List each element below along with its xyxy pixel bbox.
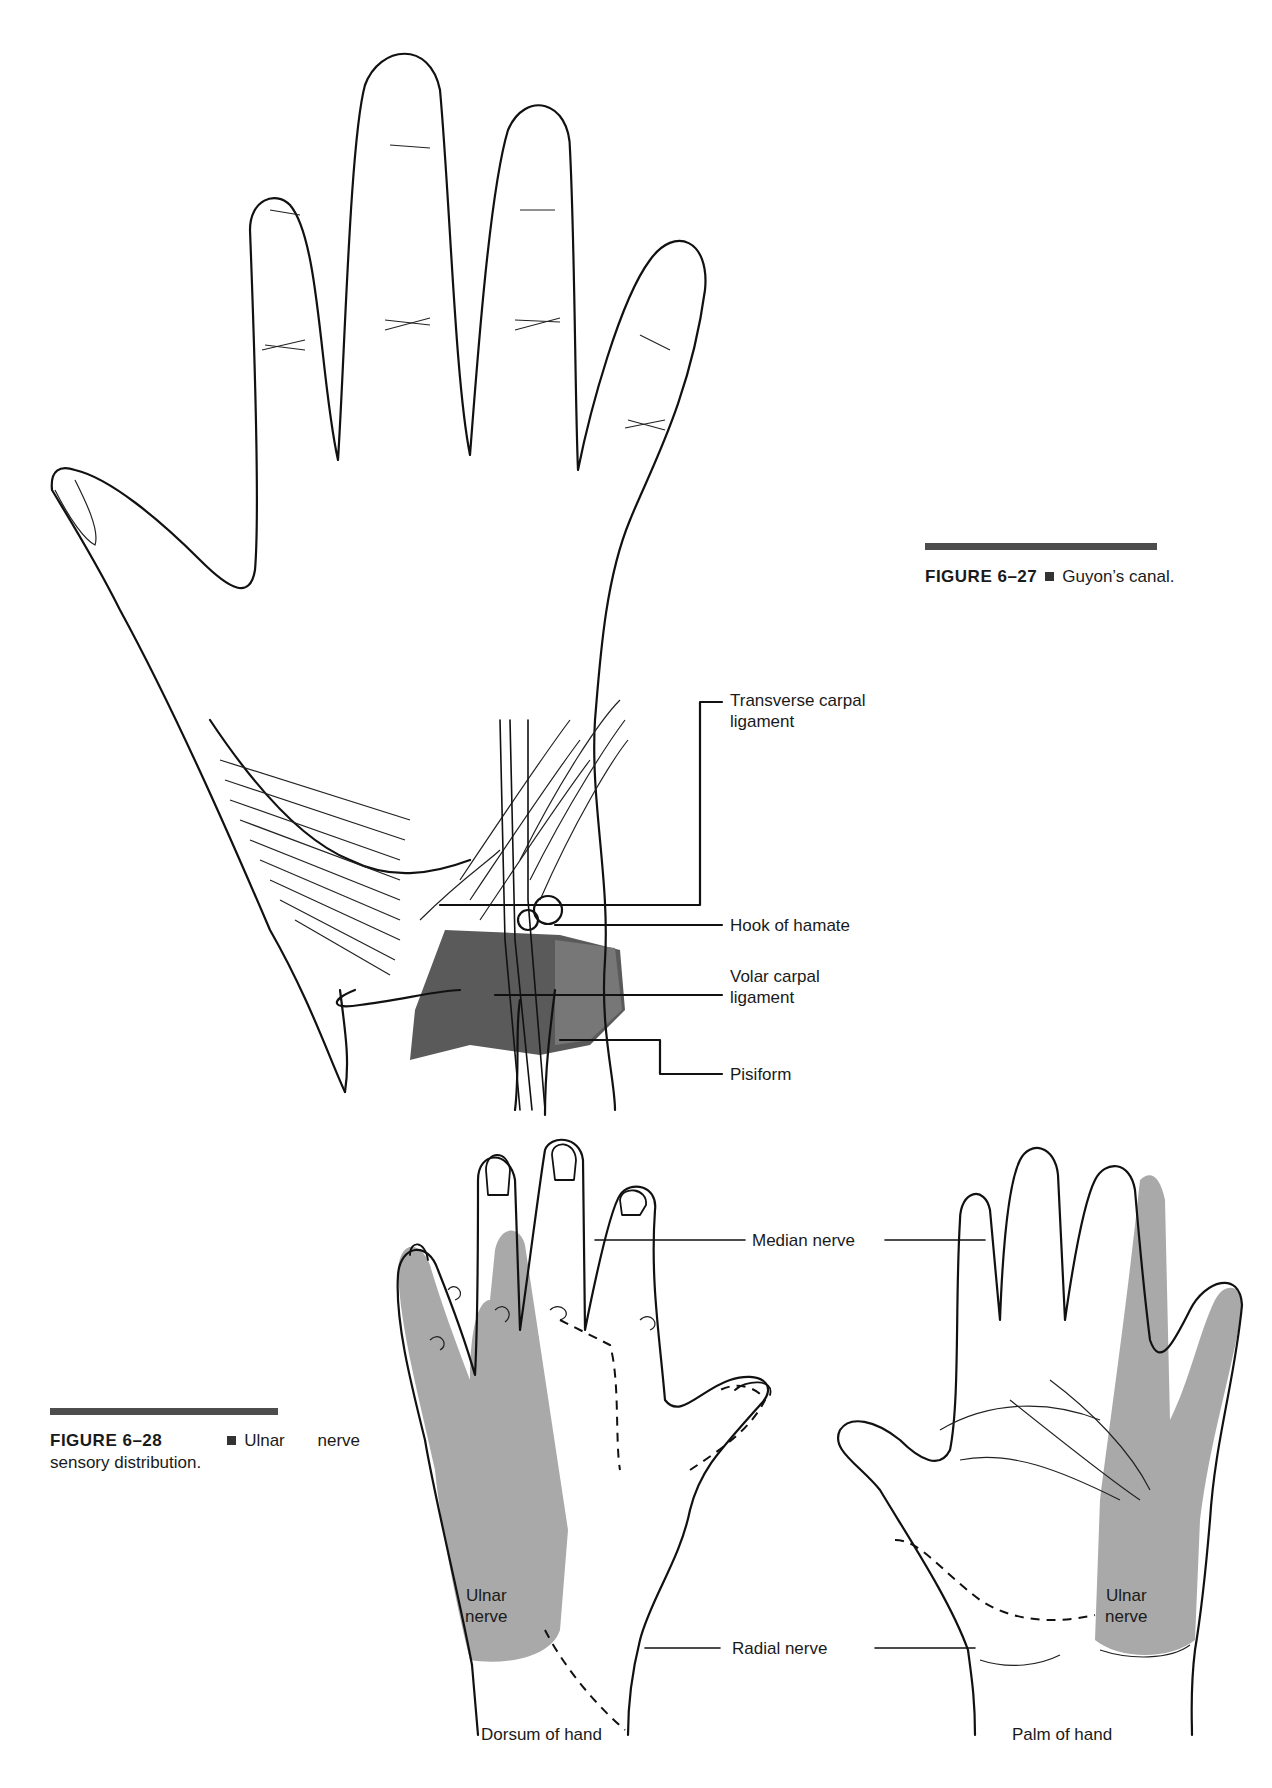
fig28-leader-lines (595, 1240, 985, 1648)
bullet-square-icon (227, 1436, 236, 1445)
label-line: Ulnar (1105, 1585, 1148, 1606)
figure-6-28-caption-rule (50, 1408, 278, 1415)
caption-line-1: FIGURE 6–28 Ulnar nerve (50, 1430, 360, 1452)
ulnar-nerve-distribution-illustration (0, 0, 1272, 1788)
palm-dashed-boundary (895, 1540, 1095, 1620)
label-radial-nerve: Radial nerve (732, 1638, 827, 1659)
label-ulnar-nerve-dorsum: Ulnar nerve (465, 1585, 508, 1627)
label-line: nerve (465, 1606, 508, 1627)
label-dorsum-of-hand: Dorsum of hand (481, 1724, 602, 1745)
figure-title-line1: Ulnar nerve (244, 1430, 360, 1452)
figure-number: FIGURE 6–28 (50, 1430, 162, 1452)
figure-title-line2: sensory distribution. (50, 1452, 360, 1474)
label-palm-of-hand: Palm of hand (1012, 1724, 1112, 1745)
ulnar-shading-palm (1095, 1175, 1242, 1655)
label-line: Ulnar (465, 1585, 508, 1606)
figure-6-28-caption: FIGURE 6–28 Ulnar nerve sensory distribu… (50, 1430, 360, 1474)
label-line: nerve (1105, 1606, 1148, 1627)
label-median-nerve: Median nerve (752, 1230, 855, 1251)
dorsum-dashed-boundaries (545, 1320, 765, 1730)
label-ulnar-nerve-palm: Ulnar nerve (1105, 1585, 1148, 1627)
